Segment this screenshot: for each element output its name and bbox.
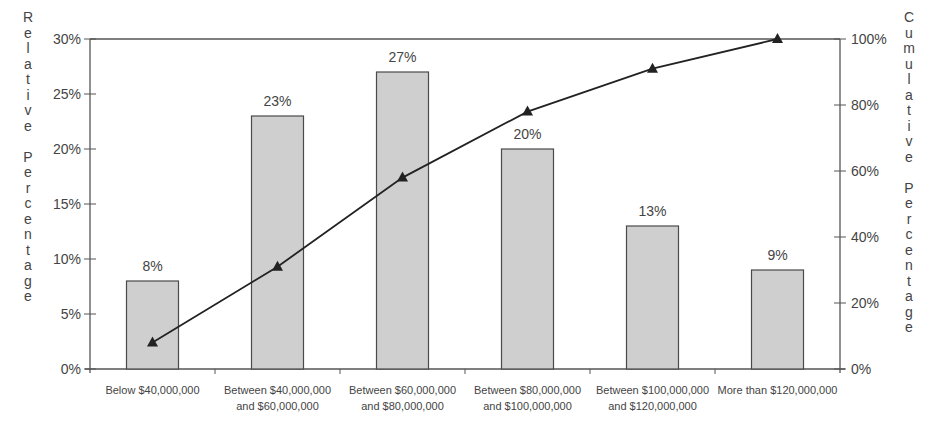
axis-title-letter: c	[901, 227, 917, 243]
axis-title-letter: e	[20, 119, 36, 135]
axis-title-letter: e	[20, 165, 36, 181]
left-axis-tick-label: 30%	[53, 31, 81, 47]
bar-data-label: 9%	[767, 247, 787, 263]
category-label: Below $40,000,000	[105, 384, 199, 396]
category-label: Between $60,000,000	[349, 384, 456, 396]
left-axis-tick-label: 20%	[53, 141, 81, 157]
bar-data-label: 13%	[638, 203, 666, 219]
bar	[377, 72, 429, 369]
axis-title-letter: u	[901, 26, 917, 42]
axis-title-letter: a	[901, 289, 917, 305]
axis-title-letter: g	[901, 305, 917, 321]
axis-title-letter: t	[901, 103, 917, 119]
bar-data-label: 27%	[388, 49, 416, 65]
axis-title-letter: t	[20, 72, 36, 88]
bar-data-labels: 8%23%27%20%13%9%	[142, 49, 787, 274]
axis-title-letter: e	[901, 243, 917, 259]
axis-title-letter: l	[20, 41, 36, 57]
axis-title-letter: r	[901, 212, 917, 228]
bar	[127, 281, 179, 369]
axis-title-letter: e	[901, 150, 917, 166]
axis-title-letter: a	[20, 258, 36, 274]
bar	[502, 149, 554, 369]
right-axis-tick-label: 60%	[851, 163, 879, 179]
category-label: Between $100,000,000	[596, 384, 709, 396]
category-label: Between $40,000,000	[224, 384, 331, 396]
left-axis-tick-label: 25%	[53, 86, 81, 102]
axis-title-letter: i	[901, 119, 917, 135]
axis-title-letter: v	[20, 103, 36, 119]
axis-title-letter: e	[901, 320, 917, 336]
plot-frame	[85, 39, 845, 374]
axis-title-letter: a	[20, 57, 36, 73]
axis-title-letter: P	[901, 181, 917, 197]
bar-series	[127, 72, 804, 369]
right-axis-tick-label: 100%	[851, 31, 887, 47]
axis-title-letter: n	[20, 227, 36, 243]
pareto-chart: 8%23%27%20%13%9% 0%5%10%15%20%25%30% 0%2…	[0, 0, 934, 439]
cumulative-line	[153, 39, 778, 343]
left-axis-tick-label: 5%	[61, 306, 81, 322]
category-label: and $100,000,000	[483, 400, 572, 412]
right-axis-ticks: 0%20%40%60%80%100%	[834, 31, 887, 377]
category-axis-labels: Below $40,000,000Between $40,000,000and …	[105, 384, 837, 412]
axis-title-letter: e	[20, 289, 36, 305]
category-label: More than $120,000,000	[718, 384, 838, 396]
axis-title-letter: i	[20, 88, 36, 104]
bar-data-label: 20%	[513, 126, 541, 142]
axis-title-letter: l	[901, 72, 917, 88]
left-axis-tick-label: 15%	[53, 196, 81, 212]
axis-title-letter: e	[20, 212, 36, 228]
axis-title-letter: a	[901, 88, 917, 104]
axis-title-letter: v	[901, 134, 917, 150]
axis-title-letter: e	[20, 26, 36, 42]
bar	[752, 270, 804, 369]
axis-title-letter: R	[20, 10, 36, 26]
category-label: and $60,000,000	[236, 400, 319, 412]
axis-title-letter: r	[20, 181, 36, 197]
axis-title-letter: t	[20, 243, 36, 259]
bar-data-label: 8%	[142, 258, 162, 274]
axis-title-letter: C	[901, 10, 917, 26]
axis-title-letter: c	[20, 196, 36, 212]
axis-title-letter: g	[20, 274, 36, 290]
triangle-marker-icon	[772, 33, 783, 43]
axis-title-letter: u	[901, 57, 917, 73]
category-label: and $80,000,000	[361, 400, 444, 412]
right-axis-tick-label: 0%	[851, 361, 871, 377]
category-label: and $120,000,000	[608, 400, 697, 412]
bar	[252, 116, 304, 369]
bar-data-label: 23%	[263, 93, 291, 109]
left-axis-title: Relative Percentage	[20, 10, 36, 305]
axis-title-letter	[901, 165, 917, 181]
axis-title-letter: m	[901, 41, 917, 57]
axis-title-letter: t	[901, 274, 917, 290]
right-axis-tick-label: 20%	[851, 295, 879, 311]
left-axis-tick-label: 0%	[61, 361, 81, 377]
axis-title-letter: e	[901, 196, 917, 212]
bar	[627, 226, 679, 369]
axis-title-letter: P	[20, 150, 36, 166]
category-label: Between $80,000,000	[474, 384, 581, 396]
cumulative-line-series	[147, 33, 783, 347]
right-axis-tick-label: 40%	[851, 229, 879, 245]
right-axis-title: Cumulative Percentage	[901, 10, 917, 336]
left-axis-tick-label: 10%	[53, 251, 81, 267]
axis-title-letter: n	[901, 258, 917, 274]
right-axis-tick-label: 80%	[851, 97, 879, 113]
axis-title-letter	[20, 134, 36, 150]
